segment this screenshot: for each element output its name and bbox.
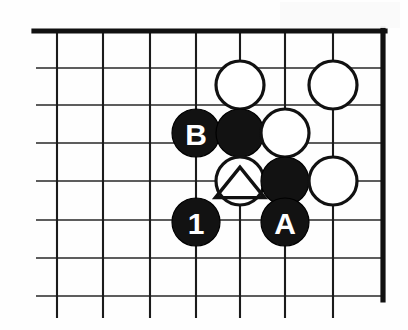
stone-black-1[interactable]: 1 [172,198,220,246]
stone-disc [309,61,357,109]
stone-label-B: B [185,118,207,151]
go-board[interactable]: B1A [0,0,408,330]
stone-black-B[interactable]: B [172,109,220,157]
go-diagram: B1A [0,0,408,330]
stone-disc [216,61,264,109]
stone-black[interactable] [216,109,264,157]
stone-black-A[interactable]: A [261,198,309,246]
stone-white[interactable] [309,157,357,205]
stone-white[interactable] [309,61,357,109]
stone-disc [216,109,264,157]
stone-white[interactable] [215,157,264,205]
stone-disc [261,109,309,157]
stone-disc [309,157,357,205]
stone-label-A: A [274,207,296,240]
stone-white[interactable] [261,109,309,157]
stone-label-1: 1 [188,207,205,240]
stones-layer[interactable]: B1A [172,61,357,246]
stone-white[interactable] [216,61,264,109]
